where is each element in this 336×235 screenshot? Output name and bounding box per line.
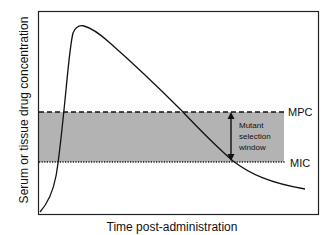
mic-label: MIC [290,157,310,169]
y-axis-label: Serum or tissue drug concentration [17,17,31,204]
chart: Mutant selection window MPC MIC Time pos… [0,0,336,235]
window-label-line1: Mutant [239,121,264,130]
window-label-line2: selection [239,132,271,141]
window-label-line3: window [238,143,266,152]
x-axis-label: Time post-administration [107,220,238,234]
mpc-label: MPC [288,106,313,118]
